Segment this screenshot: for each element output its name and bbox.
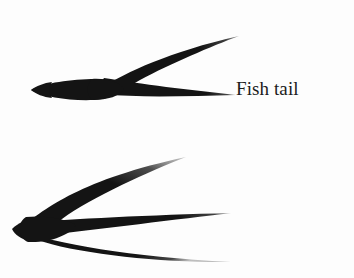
figure-row-bird-claw: Bird claw (0, 139, 354, 278)
figure-row-fish-tail: Fish tail (0, 0, 354, 139)
label-fish-tail: Fish tail (236, 79, 299, 98)
bird-claw-stroke-icon (0, 139, 354, 278)
fish-tail-stroke-icon (0, 0, 354, 139)
figure-container: Fish tail (0, 0, 354, 278)
